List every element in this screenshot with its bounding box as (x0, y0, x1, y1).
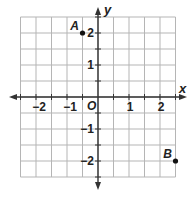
point-marker-icon (173, 158, 178, 163)
origin-label: O (87, 99, 97, 113)
x-tick-label: 2 (158, 100, 165, 114)
point-label: A (69, 19, 79, 33)
x-tick-label: −2 (32, 100, 46, 114)
y-tick-label: −2 (80, 154, 94, 168)
x-axis-label: x (178, 81, 187, 96)
coordinate-plane: x y O −2−11221−1−2 AB (0, 0, 196, 200)
x-tick-label: 1 (127, 100, 134, 114)
y-axis-down-arrow-icon (95, 182, 101, 190)
x-axis-left-arrow-icon (9, 94, 17, 100)
y-tick-label: −1 (80, 122, 94, 136)
x-tick-label: −1 (63, 100, 77, 114)
point-label: B (163, 147, 172, 161)
y-tick-label: 2 (87, 26, 94, 40)
y-axis-label: y (103, 2, 112, 17)
y-tick-label: 1 (87, 58, 94, 72)
points: AB (69, 19, 178, 164)
y-axis-up-arrow-icon (95, 7, 101, 15)
point-marker-icon (80, 30, 85, 35)
